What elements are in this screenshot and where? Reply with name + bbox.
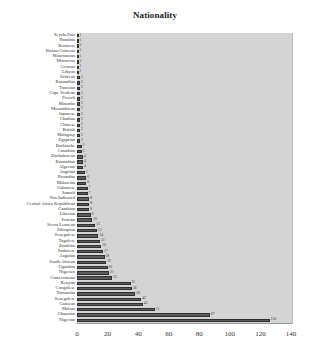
x-tick-label: 60	[165, 330, 172, 338]
bar	[77, 224, 95, 227]
bar	[77, 245, 101, 248]
value-label: 2	[81, 117, 83, 122]
bar	[77, 134, 80, 137]
bar	[77, 129, 80, 132]
value-label: 4	[84, 154, 86, 159]
value-label: 1	[80, 38, 82, 43]
value-label: 43	[144, 301, 148, 306]
bar	[77, 197, 89, 200]
value-label: 1	[80, 64, 82, 69]
x-tick-label: 20	[104, 330, 111, 338]
x-tick-label: 120	[255, 330, 266, 338]
value-label: 1	[80, 33, 82, 38]
value-label: 2	[81, 133, 83, 138]
bar-rows: Seychellois1Namibia1Beninese1Bissau-Guin…	[0, 33, 310, 323]
value-label: 8	[90, 196, 92, 201]
value-label: 23	[113, 275, 117, 280]
value-label: 9	[92, 212, 94, 217]
value-label: 16	[102, 243, 106, 248]
bar	[77, 298, 141, 301]
bar	[77, 313, 210, 316]
bar	[77, 87, 80, 90]
value-label: 2	[81, 101, 83, 106]
value-label: 6	[87, 180, 89, 185]
value-label: 87	[211, 312, 215, 317]
bar	[77, 160, 83, 163]
x-tick-label: 140	[286, 330, 297, 338]
value-label: 2	[81, 106, 83, 111]
value-label: 1	[80, 43, 82, 48]
value-label: 2	[81, 96, 83, 101]
x-tick-label: 80	[196, 330, 203, 338]
chart-title: Nationality	[0, 10, 310, 20]
value-label: 18	[106, 254, 110, 259]
value-label: 15	[101, 238, 105, 243]
bar	[77, 276, 112, 279]
value-label: 36	[133, 286, 137, 291]
value-label: 1	[80, 54, 82, 59]
bar	[77, 240, 100, 243]
bar	[77, 150, 82, 153]
bar	[77, 308, 155, 311]
bar	[77, 229, 97, 232]
value-label: 1	[80, 48, 82, 53]
value-label: 8	[90, 207, 92, 212]
bar	[77, 124, 80, 127]
bar	[77, 234, 98, 237]
value-label: 8	[90, 201, 92, 206]
value-label: 35	[132, 280, 136, 285]
value-label: 42	[142, 296, 146, 301]
bar	[77, 145, 82, 148]
value-label: 51	[156, 307, 160, 312]
bar	[77, 266, 108, 269]
bar	[77, 208, 89, 211]
value-label: 2	[81, 91, 83, 96]
bar	[77, 97, 80, 100]
value-label: 2	[81, 75, 83, 80]
bar	[77, 250, 103, 253]
bar	[77, 113, 80, 116]
value-label: 2	[81, 80, 83, 85]
bar	[77, 176, 86, 179]
bar	[77, 171, 85, 174]
value-label: 20	[109, 265, 113, 270]
value-label: 4	[84, 159, 86, 164]
bar	[77, 292, 135, 295]
value-label: 3	[83, 149, 85, 154]
value-label: 10	[93, 217, 97, 222]
value-label: 7	[89, 191, 91, 196]
bar	[77, 303, 143, 306]
bar	[77, 282, 131, 285]
bar	[77, 255, 105, 258]
bar	[77, 166, 83, 169]
value-label: 13	[98, 228, 102, 233]
value-label: 2	[81, 85, 83, 90]
bar	[77, 76, 80, 79]
value-label: 17	[104, 249, 108, 254]
bar	[77, 287, 132, 290]
value-label: 1	[80, 69, 82, 74]
value-label: 2	[81, 112, 83, 117]
value-label: 7	[89, 185, 91, 190]
value-label: 126	[271, 317, 276, 322]
bar	[77, 213, 91, 216]
bar	[77, 203, 89, 206]
value-label: 4	[84, 164, 86, 169]
bar	[77, 218, 92, 221]
bar	[77, 192, 88, 195]
bar	[77, 108, 80, 111]
bar	[77, 271, 109, 274]
value-label: 5	[86, 170, 88, 175]
bar	[77, 102, 80, 105]
bar	[77, 139, 80, 142]
bar-row: Nigerian126	[0, 318, 310, 323]
bar	[77, 187, 88, 190]
bar	[77, 261, 106, 264]
category-label: Nigerian	[59, 317, 75, 322]
bar	[77, 182, 86, 185]
bar	[77, 319, 270, 322]
x-tick-label: 0	[75, 330, 79, 338]
value-label: 3	[83, 143, 85, 148]
value-label: 2	[81, 127, 83, 132]
value-label: 38	[136, 291, 140, 296]
